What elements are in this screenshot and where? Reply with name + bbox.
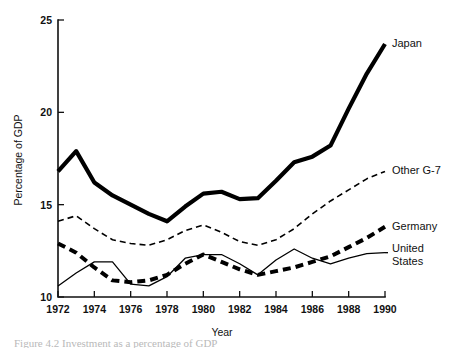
chart-axes: 10152025 1972197419761978198019821984198… [40,14,397,315]
x-axis-tick-labels: 1972197419761978198019821984198619881990 [46,303,397,315]
line-chart: 10152025 1972197419761978198019821984198… [0,0,453,348]
series-labels-group: JapanOther G-7GermanyUnitedStates [385,37,441,267]
data-series-group [58,44,385,286]
series-label-japan: Japan [392,37,422,49]
y-tick-label: 20 [40,106,52,118]
y-tick-label: 25 [40,14,52,26]
x-tick-label: 1982 [228,303,252,315]
x-tick-label: 1972 [46,303,70,315]
y-axis-tick-labels: 10152025 [40,14,52,303]
y-axis-ticks [58,20,64,297]
x-tick-label: 1984 [264,303,288,315]
y-tick-label: 15 [40,199,52,211]
figure-container: 10152025 1972197419761978198019821984198… [0,0,453,348]
figure-caption: Figure 4.2 Investment as a percentage of… [14,337,444,348]
y-axis-title: Percentage of GDP [12,114,24,205]
x-tick-label: 1980 [192,303,216,315]
x-tick-label: 1986 [301,303,325,315]
x-tick-label: 1988 [337,303,361,315]
series-line-other-g-7 [58,171,385,245]
x-axis-ticks [58,291,385,297]
x-tick-label: 1990 [373,303,397,315]
series-label-united-states: United [392,242,424,254]
series-label-germany: Germany [392,220,438,232]
y-tick-label: 10 [40,291,52,303]
series-line-japan [58,44,385,221]
series-label-united-states-line2: States [392,255,424,267]
x-tick-label: 1974 [83,303,107,315]
x-tick-label: 1976 [119,303,143,315]
x-tick-label: 1978 [155,303,179,315]
series-label-other-g-7: Other G-7 [392,164,441,176]
